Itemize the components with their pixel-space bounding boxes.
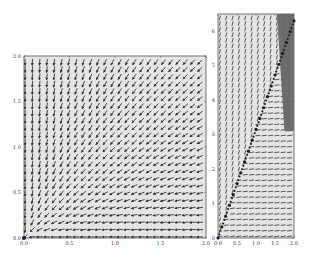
right-vector-field-plot: 0.00.51.01.52.00123456	[212, 14, 298, 246]
trajectory-point	[249, 146, 251, 148]
arrow	[182, 222, 188, 223]
arrow	[189, 222, 195, 223]
trajectory-point	[273, 78, 275, 80]
trajectory-point	[252, 136, 254, 138]
arrow	[109, 229, 115, 230]
trajectory-point	[290, 27, 292, 29]
trajectory-point	[282, 52, 284, 54]
trajectory-point	[232, 193, 234, 195]
arrow	[197, 222, 203, 223]
y-tick-label: 4	[212, 97, 215, 103]
x-tick-label: 1.5	[271, 240, 279, 246]
trajectory-point	[228, 204, 230, 206]
trajectory-point	[222, 222, 224, 224]
arrow	[39, 59, 40, 65]
trajectory-point	[237, 179, 239, 181]
y-tick-label: 1	[212, 200, 215, 206]
arrow	[116, 229, 122, 230]
trajectory-point	[251, 139, 253, 141]
trajectory-point	[265, 99, 267, 101]
trajectory-point	[219, 230, 221, 232]
x-tick-label: 2.0	[202, 240, 210, 246]
trajectory-point	[261, 110, 263, 112]
trajectory-point	[287, 38, 289, 40]
trajectory-point	[233, 190, 235, 192]
trajectory-point	[223, 219, 225, 221]
trajectory-point	[254, 132, 256, 134]
trajectory-point	[225, 215, 227, 217]
y-tick-label: 1.5	[13, 98, 21, 104]
figure-canvas: 0.00.51.01.52.00.00.51.01.52.0 0.00.51.0…	[0, 0, 309, 260]
x-tick-label: 0.0	[214, 240, 222, 246]
trajectory-point	[244, 161, 246, 163]
trajectory-point	[242, 165, 244, 167]
y-tick-label: 0.0	[13, 235, 21, 241]
trajectory-point	[231, 197, 233, 199]
arrow	[39, 74, 40, 80]
arrow	[32, 146, 33, 152]
y-tick-label: 0.5	[13, 189, 21, 195]
trajectory-point	[285, 42, 287, 44]
trajectory-point	[218, 233, 220, 235]
trajectory-point	[280, 56, 282, 58]
trajectory-point	[235, 186, 237, 188]
arrow	[32, 139, 33, 145]
y-tick-label: 0	[212, 235, 215, 241]
trajectory-point	[255, 128, 257, 130]
trajectory-point	[238, 175, 240, 177]
x-tick-label: 0.5	[66, 240, 74, 246]
x-tick-label: 2.0	[290, 240, 298, 246]
trajectory-point	[241, 168, 243, 170]
trajectory-point	[240, 172, 242, 174]
trajectory-point	[292, 23, 294, 25]
trajectory-point	[257, 121, 259, 123]
trajectory-point	[269, 89, 271, 91]
trajectory-point	[246, 154, 248, 156]
x-tick-label: 0.0	[20, 240, 28, 246]
trajectory-point	[279, 60, 281, 62]
trajectory-point	[260, 114, 262, 116]
trajectory-point	[227, 208, 229, 210]
arrow	[32, 132, 33, 138]
trajectory-point	[226, 212, 228, 214]
y-tick-label: 6	[212, 28, 215, 34]
trajectory-point	[276, 67, 278, 69]
trajectory-point	[221, 226, 223, 228]
trajectory-point	[263, 107, 265, 109]
trajectory-point	[266, 96, 268, 98]
trajectory-point	[236, 183, 238, 185]
x-tick-label: 1.5	[157, 240, 165, 246]
y-tick-label: 1.0	[13, 144, 21, 150]
arrow	[39, 66, 40, 72]
trajectory-point	[270, 85, 272, 87]
y-tick-label: 2.0	[13, 53, 21, 59]
trajectory-point	[278, 63, 280, 65]
x-tick-label: 1.0	[252, 240, 260, 246]
trajectory-point	[293, 20, 295, 22]
trajectory-point	[271, 81, 273, 83]
trajectory-point	[264, 103, 266, 105]
trajectory-point	[283, 49, 285, 51]
trajectory-point	[250, 143, 252, 145]
trajectory-point	[284, 45, 286, 47]
x-tick-label: 0.5	[233, 240, 241, 246]
trajectory-point	[230, 201, 232, 203]
trajectory-point	[245, 157, 247, 159]
y-tick-label: 2	[212, 166, 215, 172]
trajectory-point	[256, 125, 258, 127]
trajectory-point	[288, 34, 290, 36]
x-tick-label: 1.0	[111, 240, 119, 246]
trajectory-point	[217, 237, 219, 239]
trajectory-point	[259, 117, 261, 119]
y-tick-label: 5	[212, 62, 215, 68]
trajectory-point	[268, 92, 270, 94]
y-tick-label: 3	[212, 131, 215, 137]
trajectory-point	[274, 74, 276, 76]
trajectory-point	[247, 150, 249, 152]
arrow	[124, 229, 130, 230]
left-vector-field-plot: 0.00.51.01.52.00.00.51.01.52.0	[13, 53, 210, 246]
trajectory-point	[289, 31, 291, 33]
origin-marker	[22, 236, 26, 240]
trajectory-point	[275, 70, 277, 72]
